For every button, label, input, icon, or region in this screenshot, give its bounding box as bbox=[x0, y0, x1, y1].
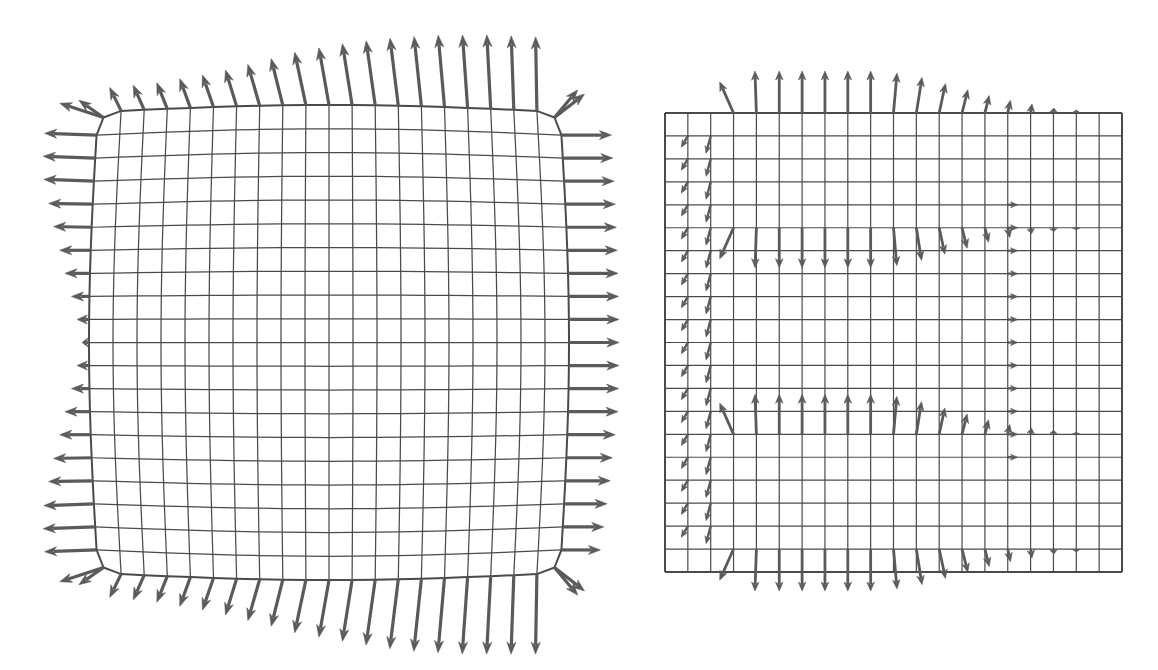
traction-arrow-bottom-shaft bbox=[273, 580, 282, 618]
residual-arrow-inner-top-shaft bbox=[916, 228, 920, 254]
traction-arrow-top-shaft bbox=[320, 57, 329, 105]
traction-arrow-top-shaft bbox=[536, 46, 537, 111]
traction-arrow-bottom-shaft bbox=[205, 578, 213, 602]
traction-arrow-bottom-shaft bbox=[487, 576, 491, 645]
residual-arrow-inner-bottom-shaft bbox=[916, 408, 920, 434]
residual-arrow-outer-bottom-shaft bbox=[1008, 549, 1009, 555]
traction-arrow-left-shaft bbox=[53, 504, 94, 505]
residual-arrow-outer-bottom-shaft bbox=[939, 549, 944, 572]
residual-arrow-inner-bottom-shaft bbox=[985, 426, 987, 434]
traction-arrow-bottom-shaft bbox=[391, 579, 398, 640]
traction-arrow-top-shaft bbox=[250, 73, 259, 106]
residual-arrow-inner-top-shaft bbox=[939, 228, 943, 248]
traction-arrow-left-shaft bbox=[52, 527, 95, 529]
residual-arrow-outer-top-shaft bbox=[1031, 110, 1032, 113]
traction-arrow-bottom-shaft bbox=[297, 580, 306, 624]
traction-arrow-bottom-shaft bbox=[463, 577, 468, 645]
traction-arrow-top-shaft bbox=[367, 50, 375, 105]
residual-arrow-inner-bottom-shaft bbox=[722, 409, 733, 434]
residual-arrow-outer-bottom-shaft bbox=[755, 549, 756, 584]
traction-arrow-bottom-shaft bbox=[439, 578, 445, 644]
left-panel bbox=[0, 0, 630, 670]
residual-arrow-outer-bottom-shaft bbox=[916, 549, 921, 578]
right-panel bbox=[630, 0, 1158, 670]
residual-arrow-outer-top-shaft bbox=[985, 102, 988, 113]
residual-arrow-outer-bottom-shaft bbox=[962, 549, 966, 566]
residual-arrow-outer-top-shaft bbox=[894, 80, 897, 113]
residual-arrow-inner-top-shaft bbox=[722, 228, 733, 253]
traction-arrow-left-shaft bbox=[54, 134, 97, 136]
traction-arrow-bottom-shaft bbox=[114, 574, 121, 589]
traction-arrow-top-shaft bbox=[391, 47, 398, 106]
residual-arrow-outer-bottom-shaft bbox=[894, 549, 897, 582]
traction-arrow-top-shaft bbox=[273, 68, 282, 106]
left-boundary-traction-arrows bbox=[43, 35, 619, 654]
left-mesh-grid bbox=[89, 105, 569, 580]
traction-arrow-bottom-shaft bbox=[228, 579, 236, 607]
residual-arrow-inner-top-shaft bbox=[755, 228, 756, 261]
traction-arrow-left-shaft bbox=[63, 227, 92, 228]
traction-arrow-left-shaft bbox=[58, 204, 93, 205]
traction-arrow-top-shaft bbox=[137, 93, 144, 109]
traction-arrow-left-shaft bbox=[58, 481, 93, 482]
traction-arrow-bottom-shaft bbox=[160, 576, 167, 594]
traction-arrow-top-shaft bbox=[415, 46, 421, 107]
traction-arrow-top-shaft bbox=[463, 44, 467, 108]
traction-arrow-left-shaft bbox=[53, 180, 94, 181]
right-mesh-grid bbox=[665, 113, 1122, 572]
traction-arrow-bottom-shaft bbox=[137, 575, 144, 591]
traction-arrow-bottom-shaft bbox=[511, 575, 513, 645]
traction-arrow-left-shaft bbox=[54, 550, 97, 552]
residual-arrow-inner-bottom-shaft bbox=[755, 401, 756, 434]
traction-arrow-top-shaft bbox=[344, 53, 352, 105]
residual-arrow-outer-top-shaft bbox=[722, 88, 733, 113]
residual-arrow-outer-top-shaft bbox=[755, 78, 756, 113]
traction-arrow-bottom-shaft bbox=[344, 580, 352, 632]
traction-arrow-top-shaft bbox=[439, 44, 444, 107]
residual-arrow-outer-bottom-shaft bbox=[1031, 549, 1032, 552]
residual-arrow-inner-top-shaft bbox=[985, 228, 987, 236]
traction-arrow-top-shaft bbox=[487, 44, 490, 109]
residual-arrow-outer-bottom-shaft bbox=[722, 549, 733, 574]
residual-arrow-outer-top-shaft bbox=[1008, 107, 1009, 113]
traction-arrow-left-shaft bbox=[52, 157, 95, 159]
right-panel-canvas bbox=[630, 0, 1158, 670]
left-panel-canvas bbox=[0, 0, 630, 670]
traction-arrow-top-shaft bbox=[183, 87, 191, 108]
traction-arrow-bottom-shaft bbox=[250, 579, 259, 612]
residual-arrow-outer-top-shaft bbox=[939, 90, 944, 113]
traction-arrow-top-shaft bbox=[160, 91, 167, 109]
traction-arrow-top-shaft bbox=[512, 45, 514, 110]
traction-arrow-bottom-shaft bbox=[415, 579, 422, 643]
traction-arrow-top-shaft bbox=[205, 83, 213, 107]
traction-arrow-top-shaft bbox=[228, 79, 236, 107]
traction-arrow-left-shaft bbox=[63, 458, 92, 459]
traction-arrow-bottom-shaft bbox=[320, 580, 329, 628]
traction-arrow-top-shaft bbox=[114, 96, 121, 111]
right-residual-field-arrows bbox=[681, 71, 1080, 591]
traction-arrow-bottom-shaft bbox=[536, 574, 537, 645]
traction-arrow-bottom-shaft bbox=[183, 577, 191, 598]
residual-arrow-inner-bottom-shaft bbox=[939, 414, 943, 434]
residual-arrow-outer-top-shaft bbox=[916, 84, 921, 113]
vector-field-figure bbox=[0, 0, 1158, 670]
traction-arrow-top-shaft bbox=[297, 61, 306, 105]
traction-arrow-bottom-shaft bbox=[367, 580, 375, 636]
residual-arrow-outer-top-shaft bbox=[962, 96, 966, 113]
